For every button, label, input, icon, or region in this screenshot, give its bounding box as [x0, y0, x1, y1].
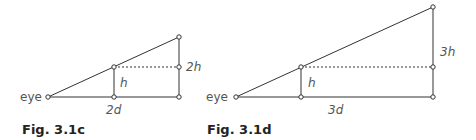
inner-height-label: h — [308, 76, 316, 90]
eye-label: eye — [206, 90, 228, 104]
figure-3-1d — [234, 5, 435, 99]
outer-height-label: 2h — [186, 60, 201, 74]
figure-3-1c — [46, 35, 181, 99]
outer-height-label: 3h — [440, 45, 455, 59]
figure-caption: Fig. 3.1d — [207, 122, 271, 137]
similar-triangles-diagram: eye h 2h 2d Fig. 3.1c eye h 3h 3d Fig. 3… — [0, 0, 476, 140]
inner-height-label: h — [120, 76, 128, 90]
figure-caption: Fig. 3.1c — [22, 122, 85, 137]
eye-label: eye — [20, 90, 42, 104]
distance-label: 2d — [106, 103, 122, 117]
distance-label: 3d — [328, 103, 344, 117]
